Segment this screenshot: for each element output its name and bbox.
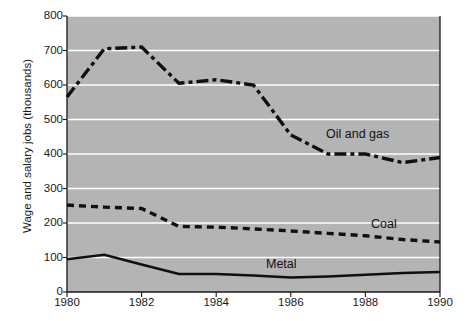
series-label-metal: Metal [266, 258, 297, 271]
y-tick-label-300: 300 [5, 183, 63, 195]
x-tick-label-1990: 1990 [417, 296, 463, 308]
y-tick-label-500: 500 [5, 114, 63, 126]
plot-area [67, 16, 440, 292]
x-tick-label-1982: 1982 [119, 296, 165, 308]
series-label-oil-and-gas: Oil and gas [326, 128, 389, 141]
line-chart: 8007006005004003002001000 1980 1982 1984… [0, 0, 476, 321]
series-label-coal: Coal [371, 218, 397, 231]
y-tick-label-400: 400 [5, 148, 63, 160]
y-tick-label-100: 100 [5, 252, 63, 264]
x-tick-label-1986: 1986 [268, 296, 314, 308]
x-tick-label-1984: 1984 [193, 296, 239, 308]
y-tick-label-200: 200 [5, 217, 63, 229]
y-tick-label-800: 800 [5, 10, 63, 22]
x-tick-label-1988: 1988 [342, 296, 388, 308]
y-axis-title: Wage and salary jobs (thousands) [21, 36, 33, 256]
y-tick-label-700: 700 [5, 45, 63, 57]
x-tick-label-1980: 1980 [44, 296, 90, 308]
y-tick-label-600: 600 [5, 79, 63, 91]
